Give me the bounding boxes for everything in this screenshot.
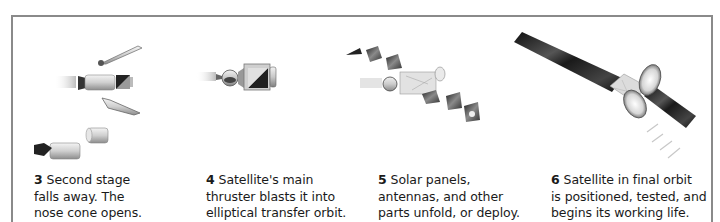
step-4-caption: 4Satellite's main thruster blasts it int… xyxy=(206,172,346,222)
step-number: 4 xyxy=(206,172,215,187)
step-3-caption: 3Second stage falls away. The nose cone … xyxy=(34,172,142,222)
step-5-caption: 5Solar panels, antennas, and other parts… xyxy=(378,172,520,222)
step-number: 5 xyxy=(378,172,387,187)
satellite-thruster-firing-illustration xyxy=(192,58,292,98)
satellite-deploying-panels-illustration xyxy=(342,44,482,124)
satellite-in-orbit-illustration xyxy=(510,24,700,159)
second-stage-separation-illustration xyxy=(30,40,160,165)
step-6-caption: 6Satellite in final orbit is positioned,… xyxy=(551,172,707,222)
step-number: 6 xyxy=(551,172,560,187)
step-number: 3 xyxy=(34,172,43,187)
